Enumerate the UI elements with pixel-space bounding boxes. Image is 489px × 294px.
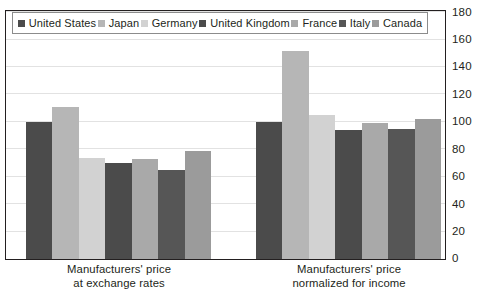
legend-swatch-icon: [339, 20, 346, 27]
legend-swatch-icon: [199, 20, 206, 27]
legend-item-united-states: United States: [18, 18, 96, 29]
x-axis-label-2: Manufacturers' pricenormalized for incom…: [249, 263, 449, 290]
bar-canada: [415, 119, 441, 259]
bar-chart: United StatesJapanGermanyUnited KingdomF…: [0, 0, 489, 294]
bar-germany: [309, 115, 335, 259]
legend-item-italy: Italy: [339, 18, 371, 29]
bar-germany: [79, 158, 105, 259]
legend-label: United States: [29, 18, 96, 29]
legend-swatch-icon: [141, 20, 148, 27]
bar-france: [362, 123, 388, 259]
y-axis-tick-100: 100: [452, 116, 486, 127]
legend-label: Germany: [152, 18, 198, 29]
y-axis-tick-80: 80: [452, 143, 486, 154]
legend-label: United Kingdom: [210, 18, 290, 29]
x-axis-label-line2: at exchange rates: [19, 277, 219, 291]
plot-area: [5, 10, 446, 260]
bar-united-kingdom: [105, 163, 131, 259]
legend-item-france: France: [291, 18, 337, 29]
legend-swatch-icon: [372, 20, 379, 27]
y-axis-tick-140: 140: [452, 61, 486, 72]
bar-united-kingdom: [335, 130, 361, 259]
y-axis-tick-labels: 020406080100120140160180: [452, 10, 488, 260]
y-axis-tick-120: 120: [452, 88, 486, 99]
legend-item-united-kingdom: United Kingdom: [199, 18, 290, 29]
y-axis-tick-180: 180: [452, 6, 486, 17]
bar-united-states: [256, 122, 282, 259]
bar-canada: [185, 151, 211, 259]
x-axis-label-line1: Manufacturers' price: [249, 263, 449, 277]
bars-layer: [6, 11, 445, 259]
legend-item-canada: Canada: [372, 18, 422, 29]
bar-japan: [282, 51, 308, 259]
bar-france: [132, 159, 158, 259]
legend-swatch-icon: [18, 20, 25, 27]
bar-italy: [388, 129, 414, 259]
y-axis-tick-40: 40: [452, 198, 486, 209]
legend-item-japan: Japan: [98, 18, 139, 29]
bar-group-2: [256, 11, 441, 259]
legend-swatch-icon: [291, 20, 298, 27]
bar-group-1: [26, 11, 211, 259]
chart-legend: United StatesJapanGermanyUnited KingdomF…: [12, 12, 428, 34]
legend-swatch-icon: [98, 20, 105, 27]
y-axis-tick-60: 60: [452, 171, 486, 182]
y-axis-tick-0: 0: [452, 253, 486, 264]
x-axis-label-line2: normalized for income: [249, 277, 449, 291]
legend-item-germany: Germany: [141, 18, 198, 29]
x-axis-label-line1: Manufacturers' price: [19, 263, 219, 277]
y-axis-tick-20: 20: [452, 225, 486, 236]
legend-label: Canada: [383, 18, 422, 29]
legend-label: Italy: [350, 18, 371, 29]
legend-label: Japan: [109, 18, 139, 29]
bar-japan: [52, 107, 78, 259]
legend-label: France: [302, 18, 337, 29]
bar-united-states: [26, 122, 52, 259]
y-axis-tick-160: 160: [452, 34, 486, 45]
bar-italy: [158, 170, 184, 259]
x-axis-label-1: Manufacturers' priceat exchange rates: [19, 263, 219, 290]
